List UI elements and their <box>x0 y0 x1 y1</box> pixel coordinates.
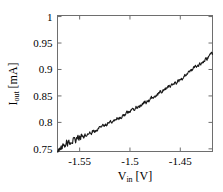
y-axis-title-unit: [mA] <box>6 62 20 88</box>
figure-container: 0.750.80.850.90.951 -1.55-1.5-1.45 Vin [… <box>0 0 223 192</box>
x-tick-label: -1.45 <box>169 156 192 167</box>
y-tick-label: 0.75 <box>0 143 53 154</box>
x-axis-title-unit: [V] <box>136 169 153 183</box>
x-tick-label: -1.5 <box>121 156 138 167</box>
y-tick-label: 0.8 <box>0 117 53 128</box>
y-tick-label: 0.95 <box>0 38 53 49</box>
y-axis-title-subscript: out <box>12 91 21 101</box>
x-axis-title-subscript: in <box>126 175 132 184</box>
y-tick-label: 1 <box>0 11 53 22</box>
x-tick-label: -1.55 <box>68 156 91 167</box>
x-axis-title: Vin [V] <box>118 170 153 184</box>
x-axis-title-base: V <box>118 169 127 183</box>
y-axis-title: Iout [mA] <box>7 62 21 105</box>
y-axis-title-base: I <box>6 102 20 106</box>
